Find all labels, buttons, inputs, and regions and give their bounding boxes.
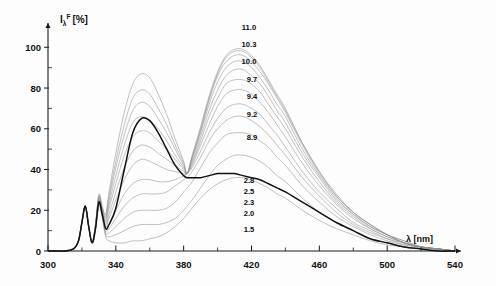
series-ph-label: 9.2 xyxy=(247,110,258,119)
spectra-plot: 300340380420460500540020406080100 11.010… xyxy=(0,0,496,286)
x-axis-tick-label: 340 xyxy=(108,259,124,270)
y-axis-tick-label: 60 xyxy=(30,123,41,134)
series-ph-label: 11.0 xyxy=(242,23,256,32)
fluorescence-spectra-figure: 300340380420460500540020406080100 11.010… xyxy=(0,0,496,286)
x-axis-tick-label: 300 xyxy=(40,259,56,270)
x-axis-tick-label: 460 xyxy=(311,259,327,270)
y-axis-tick-label: 0 xyxy=(36,246,41,257)
series-ph-label: 10.3 xyxy=(242,40,257,49)
x-axis-tick-label: 420 xyxy=(244,259,260,270)
y-axis-tick-label: 80 xyxy=(30,83,41,94)
series-ph-label: 1.5 xyxy=(244,225,255,234)
y-axis-tick-label: 100 xyxy=(25,42,41,53)
y-axis-tick-label: 20 xyxy=(30,205,41,216)
x-axis-tick-label: 500 xyxy=(379,259,395,270)
series-ph-label: 9.4 xyxy=(247,92,258,101)
series-ph-label: 2.8 xyxy=(244,176,255,185)
x-axis-tick-label: 380 xyxy=(176,259,192,270)
series-ph-label: 2.3 xyxy=(244,198,255,207)
series-ph-label: 9.7 xyxy=(247,75,258,84)
y-axis-tick-label: 40 xyxy=(30,164,41,175)
series-ph-label: 10.0 xyxy=(242,57,257,66)
series-ph-label: 8.9 xyxy=(247,133,258,142)
x-axis-tick-label: 540 xyxy=(447,259,463,270)
series-ph-label: 2.5 xyxy=(244,187,255,196)
series-ph-label: 2.0 xyxy=(244,209,255,218)
x-axis-title: λ [nm] xyxy=(406,234,433,244)
